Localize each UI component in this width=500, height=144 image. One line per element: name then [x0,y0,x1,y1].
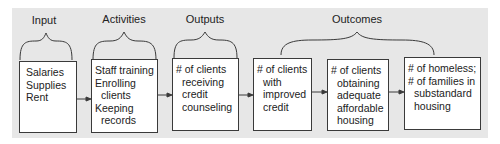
box-line: credit [257,101,308,114]
box-outcome-affordable-housing: # of clients obtaining adequate affordab… [327,59,389,131]
box-line: Rent [26,91,73,104]
box-line: receiving [176,76,235,89]
box-line: clients [95,89,154,102]
box-line: # of clients [331,64,385,77]
box-line: credit [176,88,235,101]
brace-outputs [174,32,237,58]
box-outputs: # of clients receiving credit counseling [172,58,239,131]
box-line: # of families in [408,75,477,88]
box-line: adequate [331,89,385,102]
box-line: Supplies [26,79,73,92]
box-line: Staff training [95,64,154,77]
box-line: records [95,114,154,127]
box-line: Enrolling [95,77,154,90]
box-line: obtaining [331,77,385,90]
box-line: housing [331,114,385,127]
box-line: Keeping [95,102,154,115]
brace-activities [93,32,156,60]
brace-input [20,33,72,60]
box-line: counseling [176,101,235,114]
box-line: substandard [408,87,477,100]
box-input: Salaries Supplies Rent [19,61,77,133]
box-outcome-homelessness: # of homeless; # of families in substand… [404,57,481,130]
box-line: # of homeless; [408,62,477,75]
brace-outcomes [281,32,434,55]
box-line: affordable [331,102,385,115]
box-line: improved [257,88,308,101]
box-line: housing [408,100,477,113]
box-line: # of clients [257,63,308,76]
box-outcome-improved-credit: # of clients with improved credit [253,58,312,131]
box-line: with [257,76,308,89]
box-line: Salaries [26,66,73,79]
box-activities: Staff training Enrolling clients Keeping… [91,59,158,133]
box-line: # of clients [176,63,235,76]
